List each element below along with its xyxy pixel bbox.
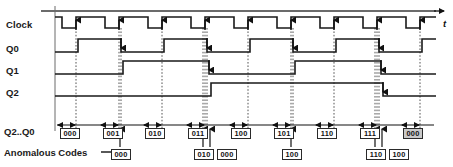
signal-label-clock: Clock xyxy=(6,19,32,30)
state-code-box: 001 xyxy=(103,128,123,139)
state-code-box: 110 xyxy=(317,128,337,139)
signal-label-q1: Q1 xyxy=(6,65,19,76)
waveform-canvas xyxy=(0,0,453,167)
anomalous-code-box: 000 xyxy=(111,149,131,160)
state-code-box: 101 xyxy=(274,128,294,139)
state-code-box: 100 xyxy=(231,128,251,139)
anomalous-code-box: 100 xyxy=(389,149,409,160)
state-code-box-final: 000 xyxy=(403,128,423,139)
row-label-state-codes: Q2..Q0 xyxy=(4,126,35,137)
row-label-anomalous-codes: Anomalous Codes xyxy=(4,147,87,158)
signal-label-q0: Q0 xyxy=(6,43,19,54)
axis-label-t: t xyxy=(443,18,446,29)
anomalous-code-box: 110 xyxy=(366,149,386,160)
timing-diagram-figure: Clock Q0 Q1 Q2 t Q2..Q0 Anomalous Codes … xyxy=(0,0,453,167)
signal-label-q2: Q2 xyxy=(6,87,19,98)
state-code-box: 111 xyxy=(360,128,380,139)
waveform-clock xyxy=(55,17,436,28)
state-code-box: 011 xyxy=(188,128,208,139)
state-code-box: 010 xyxy=(145,128,165,139)
anomalous-code-box: 000 xyxy=(217,149,237,160)
state-code-box: 000 xyxy=(60,128,80,139)
anomalous-code-box: 010 xyxy=(194,149,214,160)
edge-guides xyxy=(76,28,420,128)
anomalous-code-box: 100 xyxy=(282,149,302,160)
